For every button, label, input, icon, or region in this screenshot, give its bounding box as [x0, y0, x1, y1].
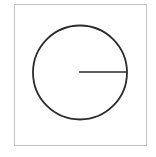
circle-radius-diagram: [0, 0, 156, 157]
figure-background: [0, 0, 156, 157]
figure-canvas: [0, 0, 156, 157]
paper-bottom-edge: [0, 155, 156, 157]
